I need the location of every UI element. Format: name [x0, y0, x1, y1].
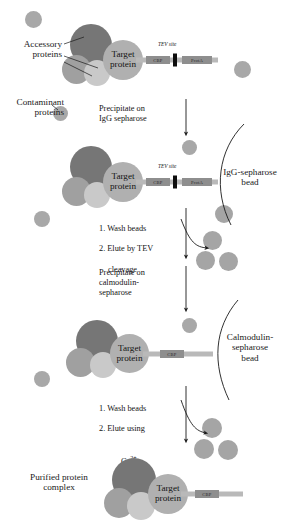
bead-circle — [203, 231, 222, 250]
tag-bar-stage-2: CBP ProtA — [136, 174, 218, 190]
contaminant-circle — [25, 11, 42, 28]
purified-protein-complex-label: Purified protein complex — [16, 472, 102, 493]
contaminant-circle — [182, 140, 197, 155]
step-wash-beads-line: 1. Wash beads — [99, 224, 177, 234]
step-precipitate-igg-text: Precipitate on IgG sepharose — [99, 104, 174, 124]
cbp-tag: CBP — [160, 350, 184, 358]
bead-circle — [196, 251, 215, 270]
tag-bar-stage-4: CBP — [181, 486, 243, 502]
tev-cleavage-site-marker — [173, 54, 177, 67]
cbp-tag: CBP — [195, 490, 219, 498]
step-elute-tev-line: 2. Elute by TEV — [99, 244, 177, 254]
tev-site-label: TEV site — [158, 163, 176, 169]
contaminant-circle — [234, 61, 251, 78]
bead-circle — [194, 439, 214, 459]
accessory-proteins-label: Accessory proteins — [2, 39, 62, 60]
calmodulin-sepharose-bead-label: Calmodulin- sepharose bead — [218, 332, 282, 363]
bead-circle — [218, 440, 238, 460]
contaminant-circle — [34, 371, 50, 387]
contaminant-circle — [34, 211, 50, 227]
contaminant-proteins-label: Contaminant proteins — [2, 97, 64, 118]
prota-tag: ProtA — [182, 56, 212, 64]
step-wash-beads-line: 1. Wash beads — [99, 404, 179, 414]
bead-circle — [202, 418, 222, 438]
tag-bar-stage-1: CBP ProtA — [136, 52, 218, 68]
igg-sepharose-bead-label: IgG-sepharose bead — [218, 167, 282, 188]
tag-bar-stage-3: CBP — [143, 346, 213, 362]
bead-circle — [215, 205, 233, 223]
tap-purification-diagram: Target protein CBP ProtA TEV site Access… — [0, 0, 283, 529]
prota-tag: ProtA — [182, 178, 212, 186]
contaminant-circle — [182, 318, 197, 333]
cbp-tag: CBP — [146, 178, 170, 186]
step-precipitate-calmodulin-text: Precipitate on calmodulin- sepharose — [99, 268, 179, 298]
tev-site-label: TEV site — [158, 41, 176, 47]
bead-circle — [219, 252, 238, 271]
tev-cleavage-site-marker — [173, 176, 177, 189]
step-elute-calcium-line: 2. Elute using — [99, 424, 179, 434]
cbp-tag: CBP — [146, 56, 170, 64]
